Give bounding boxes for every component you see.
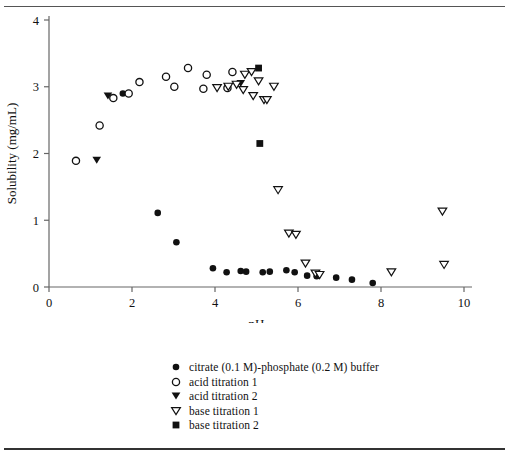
data-point-s0-11 [304,272,311,279]
data-point-s3-6 [249,93,258,100]
data-point-s1-3 [125,90,132,97]
data-point-s3-0 [213,85,222,92]
legend-row-2: acid titration 2 [163,389,509,404]
data-point-s3-13 [292,231,301,238]
data-point-s2-0 [92,157,101,164]
data-point-s0-7 [259,269,266,276]
data-point-s3-19 [440,261,449,268]
top-divider [4,6,505,7]
data-point-s0-13 [333,274,340,281]
data-point-s0-4 [223,269,230,276]
bottom-divider [4,448,505,450]
y-axis-title: Solubility (mg/mL) [4,103,19,204]
x-tick-label: 0 [46,296,52,310]
data-point-s3-17 [387,269,396,276]
x-tick-label: 6 [295,296,301,310]
legend-label-3: base titration 1 [189,405,259,417]
data-point-s1-1 [96,122,103,129]
legend-icon-svg [169,418,183,432]
data-point-s1-6 [171,83,178,90]
y-tick-label: 1 [33,214,39,228]
data-point-s3-7 [254,78,263,85]
scatter-plot: 012340246810pHSolubility (mg/mL) [0,8,509,323]
legend-marker-filled-circle-icon [163,360,189,374]
data-point-s0-9 [283,267,290,274]
data-point-s1-10 [229,68,236,75]
data-point-s4-1 [256,140,263,147]
legend-label-1: acid titration 1 [189,376,258,388]
data-point-s0-8 [266,268,273,275]
data-point-s1-4 [136,78,143,85]
data-point-s0-10 [291,269,298,276]
legend-label-0: citrate (0.1 M)-phosphate (0.2 M) buffer [189,361,379,373]
legend-icon-svg [169,375,183,389]
legend-marker-open-circle-icon [163,375,189,389]
data-point-s3-11 [274,187,283,194]
legend-icon-svg [169,360,183,374]
x-tick-label: 2 [129,296,135,310]
legend-label-4: base titration 2 [189,419,259,431]
data-point-s1-9 [200,85,207,92]
legend-label-2: acid titration 2 [189,390,258,402]
data-point-s4-0 [255,65,262,72]
y-tick-label: 0 [33,281,39,295]
data-point-s3-4 [239,87,248,94]
data-point-s1-2 [110,94,117,101]
legend-marker-filled-square-icon [163,418,189,432]
x-tick-label: 8 [378,296,384,310]
plot-canvas: 012340246810pHSolubility (mg/mL) [0,8,509,323]
legend-row-0: citrate (0.1 M)-phosphate (0.2 M) buffer [163,360,509,375]
legend-row-1: acid titration 1 [163,375,509,390]
x-tick-label: 10 [458,296,471,310]
data-point-s0-6 [243,268,250,275]
x-tick-label: 4 [212,296,219,310]
data-point-s1-5 [162,73,169,80]
legend-row-4: base titration 2 [163,418,509,433]
legend-marker-filled-triangle-down-icon [163,389,189,403]
y-tick-label: 3 [33,80,39,94]
data-point-s0-15 [369,280,376,287]
legend-row-3: base titration 1 [163,404,509,419]
legend-marker-open-triangle-down-icon [163,404,189,418]
y-tick-label: 4 [33,14,40,28]
data-point-s0-1 [154,210,161,217]
data-point-s3-14 [301,260,310,267]
legend-icon-svg [169,404,183,418]
data-point-s0-3 [210,265,217,272]
data-point-s1-7 [184,64,191,71]
data-point-s3-18 [438,208,447,215]
data-point-s0-14 [349,276,356,283]
x-axis-title: pH [249,316,265,323]
legend-icon-svg [169,389,183,403]
y-tick-label: 2 [33,147,39,161]
data-point-s3-3 [241,71,250,78]
legend-items: citrate (0.1 M)-phosphate (0.2 M) buffer… [163,360,509,433]
data-point-s0-2 [173,239,180,246]
chart-legend: citrate (0.1 M)-phosphate (0.2 M) buffer… [0,360,509,440]
data-point-s3-10 [270,83,279,90]
data-point-s1-0 [72,157,79,164]
data-point-s1-8 [203,71,210,78]
